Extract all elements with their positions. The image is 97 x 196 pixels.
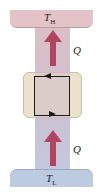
loop-arrow-left-icon — [44, 73, 52, 79]
cycle-loop — [34, 76, 70, 116]
upper-heat-label: Q — [73, 44, 81, 56]
upper-heat-arrow-icon — [44, 30, 62, 66]
loop-arrow-right-icon — [48, 111, 56, 117]
lower-heat-label: Q — [73, 143, 81, 155]
lower-heat-arrow-icon — [44, 130, 62, 166]
cold-reservoir-label: TL — [46, 172, 56, 187]
hot-reservoir-label: TH — [44, 11, 55, 26]
cold-reservoir: TL — [10, 169, 93, 187]
hot-reservoir: TH — [10, 10, 93, 28]
